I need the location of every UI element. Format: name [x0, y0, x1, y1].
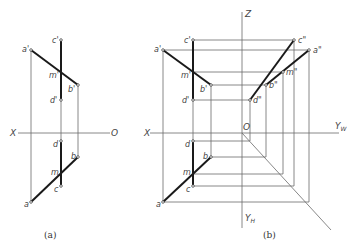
point-label: a" [313, 46, 322, 55]
point-label: m" [286, 68, 297, 77]
point-label: m' [181, 71, 191, 80]
point-label: a' [154, 45, 161, 54]
point-label: c' [184, 36, 191, 45]
yh-axis-label: YH [245, 213, 256, 224]
point-label: c" [298, 36, 306, 45]
figure-a: X O a' c' m' b' d' d b m c a (a) [9, 36, 118, 240]
point-label: b' [68, 85, 75, 94]
line-ab-top [31, 157, 78, 202]
origin-label: O [111, 128, 118, 138]
z-axis-label: Z [244, 9, 252, 19]
point-label: b [203, 152, 208, 161]
projection-drawing: X O a' c' m' b' d' d b m c a (a) [0, 0, 354, 248]
point-label: d" [253, 96, 262, 105]
point-label: a [156, 200, 161, 209]
45-degree-line [242, 133, 331, 230]
point-label: b' [200, 85, 207, 94]
point-label: b [71, 152, 76, 161]
point-label: c [54, 185, 59, 194]
caption-a: (a) [44, 230, 56, 240]
origin-label: O [243, 122, 250, 132]
x-axis-label: X [143, 128, 151, 138]
point-label: c' [52, 36, 59, 45]
point-label: m' [49, 71, 59, 80]
point-label: m [183, 168, 191, 177]
point-label: a [24, 200, 29, 209]
yw-axis-label: YW [335, 121, 348, 132]
point-label: m [51, 168, 59, 177]
point-label: a' [22, 45, 29, 54]
point-label: d' [182, 96, 189, 105]
point-label: d [185, 140, 191, 149]
point-label: c [186, 185, 191, 194]
figure-b: X Z O YW YH a' c' m' b' d' c" a" m" b" d… [143, 9, 348, 240]
point-label: d [53, 140, 59, 149]
point-label: d' [50, 96, 57, 105]
caption-b: (b) [263, 230, 276, 240]
x-axis-label: X [9, 128, 17, 138]
point-label: b" [269, 81, 278, 90]
